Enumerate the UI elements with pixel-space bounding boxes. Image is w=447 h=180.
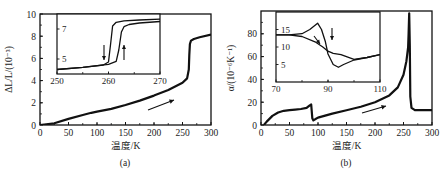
inset-plot: 709011051015 bbox=[272, 12, 388, 94]
x-tick-label: 200 bbox=[368, 128, 383, 138]
x-tick-label: 300 bbox=[204, 128, 219, 138]
inset-x-tick-label: 270 bbox=[153, 76, 167, 86]
x-tick-label: 150 bbox=[339, 128, 354, 138]
x-tick-label: 100 bbox=[311, 128, 326, 138]
x-tick-label: 150 bbox=[118, 128, 133, 138]
inset-y-tick-label: 5 bbox=[62, 54, 67, 64]
x-tick-label: 250 bbox=[396, 128, 411, 138]
y-tick-label: 80 bbox=[248, 29, 258, 39]
y-tick-label: 60 bbox=[248, 52, 258, 62]
x-tick-label: 50 bbox=[285, 128, 295, 138]
x-tick-label: 100 bbox=[90, 128, 105, 138]
y-axis-title: ΔL/L/(10⁻³) bbox=[4, 46, 15, 93]
inset-y-tick-label: 15 bbox=[281, 25, 291, 35]
y-axis-title: α/(10⁻⁶K⁻¹) bbox=[226, 45, 237, 92]
inset-x-tick-label: 110 bbox=[373, 84, 387, 94]
y-tick-label: 40 bbox=[248, 75, 258, 85]
inset-x-tick-label: 90 bbox=[324, 84, 334, 94]
inset-y-tick-label: 7 bbox=[62, 24, 67, 34]
x-axis-title: 温度/K bbox=[332, 140, 362, 151]
panel-caption: (a) bbox=[120, 158, 131, 169]
x-tick-label: 250 bbox=[175, 128, 190, 138]
y-tick-label: 20 bbox=[248, 98, 258, 108]
figure: 0501001502002503000246810ΔL/L/(10⁻³)温度/K… bbox=[0, 0, 447, 180]
panel-caption: (b) bbox=[340, 158, 351, 169]
y-tick-label: 0 bbox=[31, 121, 36, 131]
y-tick-label: 4 bbox=[31, 76, 36, 86]
y-tick-label: 10 bbox=[27, 10, 37, 20]
inset-x-tick-label: 250 bbox=[50, 76, 64, 86]
y-tick-label: 0 bbox=[252, 121, 257, 131]
x-tick-label: 50 bbox=[64, 128, 74, 138]
inset-x-tick-label: 70 bbox=[272, 84, 282, 94]
x-tick-label: 300 bbox=[425, 128, 440, 138]
inset-plot: 25026027057 bbox=[50, 14, 167, 86]
x-tick-label: 0 bbox=[259, 128, 264, 138]
x-tick-label: 200 bbox=[147, 128, 162, 138]
x-tick-label: 0 bbox=[38, 128, 43, 138]
y-tick-label: 2 bbox=[31, 98, 36, 108]
panel-a: 0501001502002503000246810ΔL/L/(10⁻³)温度/K… bbox=[4, 10, 218, 170]
panel-b: 050100150200250300020406080α/(10⁻⁶K⁻¹)温度… bbox=[226, 11, 439, 169]
y-tick-label: 6 bbox=[31, 54, 36, 64]
inset-y-tick-label: 5 bbox=[281, 60, 286, 70]
x-axis-title: 温度/K bbox=[111, 140, 141, 151]
inset-y-tick-label: 10 bbox=[281, 42, 291, 52]
y-tick-label: 8 bbox=[31, 32, 36, 42]
inset-x-tick-label: 260 bbox=[102, 76, 116, 86]
